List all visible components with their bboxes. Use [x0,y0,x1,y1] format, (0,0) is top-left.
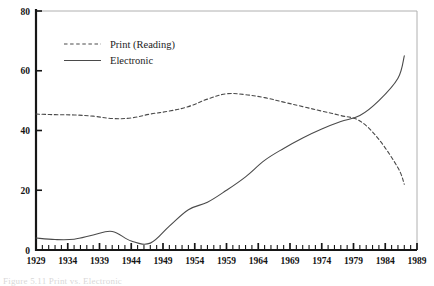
series-line-print [36,93,404,184]
x-tick-label: 1944 [122,256,141,266]
chart-legend: Print (Reading) Electronic [64,39,176,67]
y-tick-label: 40 [21,126,31,136]
y-tick-label: 20 [21,186,31,196]
legend-label-print: Print (Reading) [110,39,176,51]
y-tick-label: 80 [21,7,31,17]
figure-caption: Figure 5.11 Print vs. Electronic [3,276,122,286]
y-tick-label: 60 [21,66,31,76]
series-line-electronic [36,56,404,244]
x-axis-labels: 1929 1934 1939 1944 1949 1954 1959 1964 … [27,256,427,266]
x-tick-label: 1934 [58,256,77,266]
x-tick-label: 1939 [90,256,109,266]
x-tick-label: 1984 [376,256,395,266]
x-tick-label: 1959 [217,256,236,266]
x-tick-label: 1929 [27,256,46,266]
x-tick-label: 1964 [249,256,268,266]
x-tick-label: 1969 [281,256,300,266]
x-tick-label: 1954 [185,256,204,266]
x-tick-label: 1979 [344,256,363,266]
legend-label-electronic: Electronic [110,55,153,66]
x-tick-label: 1974 [312,256,331,266]
x-tick-label: 1949 [154,256,173,266]
y-tick-label: 0 [25,246,30,256]
y-axis-labels: 0 20 40 60 80 [21,7,31,256]
x-tick-label: 1989 [408,256,427,266]
